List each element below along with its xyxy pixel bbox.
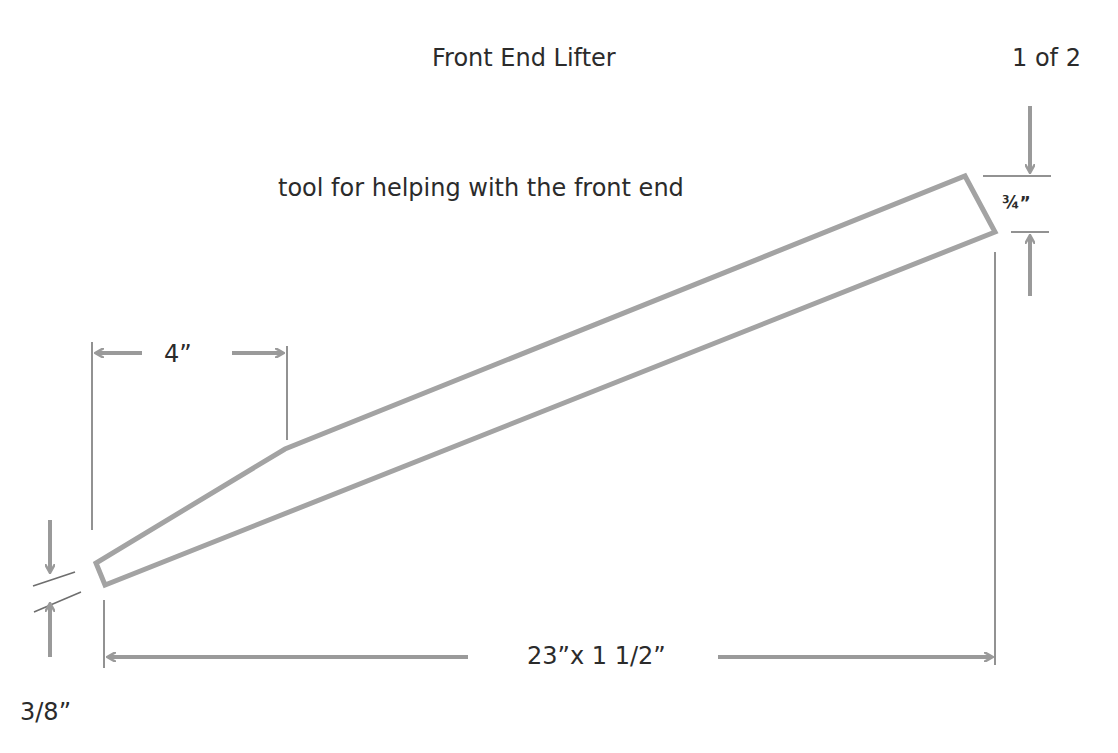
tip-height-label: 3/8” [20,698,71,726]
drawing-subtitle: tool for helping with the front end [278,174,684,202]
extension-lines [33,176,1051,668]
page-indicator: 1 of 2 [1012,44,1081,72]
drawing-title: Front End Lifter [432,44,616,72]
taper-length-label: 4” [164,340,192,368]
end-height-label: ¾” [1002,193,1031,213]
overall-dimension-label: 23”x 1 1/2” [523,642,670,670]
lifter-profile-shape [96,176,995,585]
drawing-canvas [0,0,1118,753]
